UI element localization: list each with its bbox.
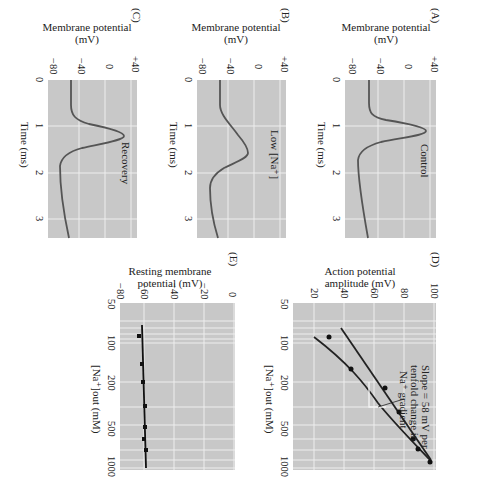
tick: 100 (279, 335, 290, 351)
svg-text:tenfold change in: tenfold change in (409, 365, 421, 442)
panel-e-letter: (E) (228, 252, 240, 266)
tick: 3 (331, 216, 342, 221)
panel-e-xlabel: [Na⁺]out (mM) (91, 365, 103, 433)
panel-d-plot: Slope = 58 mV per tenfold change in Na⁺ … (293, 303, 436, 470)
tick: 0 (403, 64, 414, 69)
panel-c-annotation: Recovery (120, 142, 132, 185)
tick: −80 (115, 283, 126, 299)
panel-a-chart: Control (345, 80, 436, 238)
tick: 1000 (106, 456, 117, 477)
panel-a-plot: Control (345, 80, 436, 238)
panel-b-annotation: Low [Na⁺] (269, 130, 281, 179)
tick: 20 (309, 288, 320, 299)
panel-a-ylabel: Membrane potential(mV) (331, 21, 441, 45)
tick: +40 (279, 56, 290, 72)
tick: 0 (253, 64, 264, 69)
tick: 60 (369, 288, 380, 299)
panel-d-annotation: Slope = 58 mV per (420, 365, 432, 449)
tick: 500 (279, 421, 290, 437)
tick: 2 (331, 170, 342, 175)
tick: 3 (183, 216, 194, 221)
panel-d-xlabel: [Na⁺]out (mM) (264, 365, 276, 433)
panel-b-plot: Low [Na⁺] (197, 80, 286, 238)
panel-c-chart: Recovery (48, 80, 137, 238)
panel-e-chart (120, 303, 235, 470)
tick: 1 (331, 123, 342, 128)
tick: −40 (169, 283, 180, 299)
tick: −20 (199, 283, 210, 299)
tick: 50 (106, 299, 117, 310)
panel-d-letter: (D) (430, 252, 442, 267)
panel-b-chart: Low [Na⁺] (197, 80, 286, 238)
tick: −40 (225, 58, 236, 74)
tick: 3 (34, 216, 45, 221)
panel-b-ylabel: Membrane potential(mV) (181, 21, 291, 45)
tick: 200 (279, 375, 290, 391)
tick: 0 (34, 77, 45, 82)
tick: −40 (375, 58, 386, 74)
tick: 0 (227, 292, 238, 297)
panel-c-plot: Recovery (48, 80, 137, 238)
tick: 200 (106, 375, 117, 391)
tick: 2 (34, 170, 45, 175)
tick: 1 (34, 123, 45, 128)
svg-text:Na⁺ gradient: Na⁺ gradient (398, 371, 410, 429)
tick: 2 (183, 170, 194, 175)
tick: +40 (429, 56, 440, 72)
tick: 40 (339, 288, 350, 299)
tick: −80 (197, 58, 208, 74)
tick: −40 (76, 58, 87, 74)
tick: 100 (429, 283, 440, 299)
tick: 1000 (279, 456, 290, 477)
tick: 50 (279, 299, 290, 310)
tick: 80 (399, 288, 410, 299)
panel-a-annotation: Control (419, 144, 431, 178)
panel-c-xlabel: Time (ms) (19, 122, 31, 168)
tick: −80 (48, 58, 59, 74)
panel-c-ylabel: Membrane potential(mV) (32, 21, 142, 45)
figure: (A) Membrane potential(mV) +40 0 −40 −80… (0, 0, 482, 494)
tick: 0 (183, 77, 194, 82)
tick: −80 (347, 58, 358, 74)
tick: −60 (139, 283, 150, 299)
tick: 1 (183, 123, 194, 128)
tick: 0 (331, 77, 342, 82)
panel-e-plot (120, 303, 235, 470)
panel-d-chart: Slope = 58 mV per tenfold change in Na⁺ … (293, 303, 436, 470)
tick: 500 (106, 421, 117, 437)
panel-b-xlabel: Time (ms) (168, 122, 180, 168)
tick: 0 (104, 64, 115, 69)
panel-a-xlabel: Time (ms) (316, 122, 328, 168)
panel-d-ylabel: Action potentialamplitude (mV) (305, 265, 415, 289)
tick: 100 (106, 335, 117, 351)
tick: +40 (130, 56, 141, 72)
